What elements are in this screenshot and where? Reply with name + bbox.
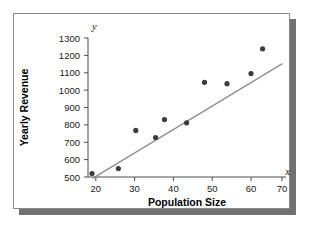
- data-point: [260, 46, 265, 51]
- x-axis-tick-labels: 20 30 40 50 60 70: [91, 183, 288, 194]
- data-point: [202, 80, 207, 85]
- data-point: [248, 71, 253, 76]
- y-tick-label: 1000: [59, 85, 80, 96]
- data-point: [224, 81, 229, 86]
- y-tick-label: 700: [64, 137, 80, 148]
- data-point: [162, 117, 167, 122]
- y-tick-label: 500: [64, 172, 80, 183]
- y-axis-variable-label: y: [91, 21, 97, 32]
- x-axis-variable-subscript: 1: [290, 172, 291, 180]
- y-axis: 1300 1200 1100 1000 900 800 700 600 500 …: [59, 21, 97, 183]
- scatter-plot-canvas: 1300 1200 1100 1000 900 800 700 600 500 …: [14, 14, 291, 210]
- y-tick-label: 800: [64, 119, 80, 130]
- data-point: [116, 166, 121, 171]
- x-axis-title: Population Size: [148, 196, 226, 208]
- scatter-plot-figure: 1300 1200 1100 1000 900 800 700 600 500 …: [13, 13, 290, 209]
- x-tick-label: 70: [277, 183, 288, 194]
- y-tick-label: 600: [64, 154, 80, 165]
- y-axis-tick-labels: 1300 1200 1100 1000 900 800 700 600 500: [59, 33, 80, 183]
- y-axis-title: Yearly Revenue: [18, 69, 30, 147]
- x-tick-label: 50: [207, 183, 218, 194]
- data-points: [89, 46, 265, 176]
- x-tick-label: 60: [246, 183, 257, 194]
- x-axis-ticks: [96, 177, 282, 181]
- y-tick-label: 1100: [60, 67, 80, 78]
- x-tick-label: 20: [91, 183, 102, 194]
- y-tick-label: 1300: [59, 33, 80, 44]
- y-tick-label: 1200: [59, 50, 80, 61]
- data-point: [184, 120, 189, 125]
- data-point: [89, 171, 94, 176]
- y-tick-label: 900: [64, 102, 80, 113]
- data-point: [133, 128, 138, 133]
- x-tick-label: 40: [168, 183, 179, 194]
- y-axis-ticks: [84, 38, 88, 177]
- x-tick-label: 30: [129, 183, 140, 194]
- data-point: [153, 135, 158, 140]
